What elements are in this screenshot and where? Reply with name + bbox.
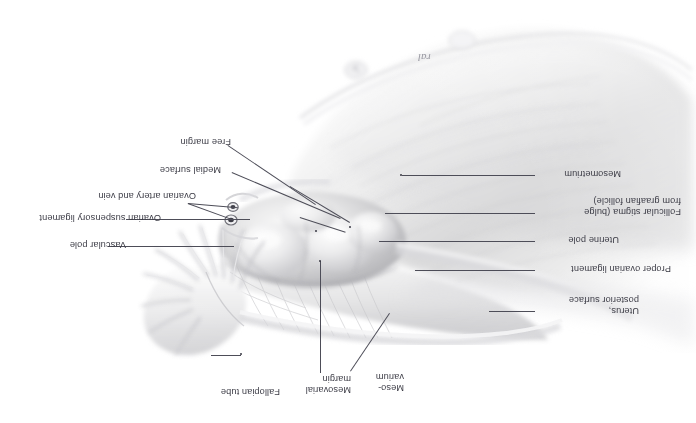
label-proper-ovarian-ligament: Proper ovarian ligament [541,263,671,274]
leader-dot-free-margin [349,226,351,228]
label-uterus-posterior: Uterus, posterior surface [541,293,639,316]
leader-free-margin-long [289,186,350,223]
label-follicular-stigma: Follicular stigma (bulge from graafian f… [541,194,681,217]
label-uterine-pole: Uterine pole [541,234,619,245]
leader-mesovarial-margin [320,261,321,373]
label-medial-surface: Medial surface [137,164,221,175]
leader-medial-surface [232,172,341,219]
label-vascular-pole: Vascular pole [58,239,126,250]
uterus-body [290,30,690,300]
ligament-nodules [345,31,475,79]
leader-proper-ovarian-ligament [415,270,535,271]
leader-uterus-posterior [489,311,535,312]
leader-mesometrium [402,175,535,176]
label-mesovarial-margin: Mesovarial margin [291,372,351,395]
leader-fallopian-tube [211,355,241,356]
leader-medial-surface-long [300,217,346,233]
label-mesometrium: Mesometrium [541,168,621,179]
leader-follicular-stigma [385,213,535,214]
label-free-margin: Free margin [163,136,231,147]
leader-dot-medial-surface [315,230,317,232]
anatomy-figure: Free margin Medial surface Ovarian arter… [0,0,696,423]
label-fallopian-tube: Fallopian tube [206,386,280,397]
leader-vascular-pole [108,246,234,247]
label-ovarian-suspensory-ligament: Ovarian suspensory ligament [21,212,161,223]
ovarian-vessels [222,194,258,239]
fallopian-tube [144,264,562,355]
label-ovarian-artery-vein: Ovarian artery and vein [78,190,196,201]
artist-signature: ral [418,52,431,64]
leader-uterine-pole [379,241,535,242]
leader-mesovarium [350,313,390,372]
label-mesovarium: Meso- varium [360,370,404,393]
